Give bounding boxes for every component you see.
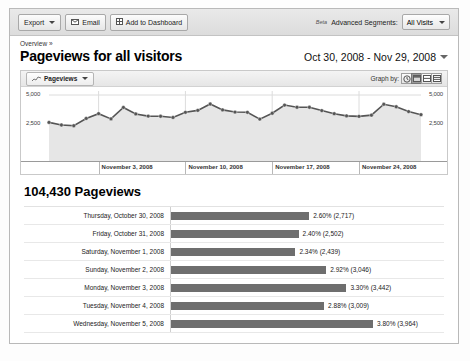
chevron-down-icon — [49, 21, 55, 24]
bar-row-label: Saturday, November 1, 2008 — [24, 248, 170, 255]
table-row[interactable]: Wednesday, November 5, 20083.80% (3,964) — [24, 315, 444, 333]
x-axis-tick-label: November 10, 2008 — [188, 164, 242, 170]
x-axis-labels: November 3, 2008November 10, 2008Novembe… — [21, 161, 447, 174]
bar-fill — [171, 212, 309, 220]
export-label: Export — [24, 19, 44, 26]
clock-icon — [403, 75, 411, 83]
advanced-segments-label: Advanced Segments: — [331, 19, 398, 26]
chevron-down-icon — [82, 77, 88, 80]
breadcrumb[interactable]: Overview » — [10, 36, 458, 47]
bar-track: 3.80% (3,964) — [170, 315, 444, 332]
daily-breakdown-table: Thursday, October 30, 20082.60% (2,717)F… — [24, 206, 444, 333]
bar-row-value: 3.30% (3,442) — [350, 284, 391, 291]
bar-row-value: 2.88% (3,009) — [328, 302, 369, 309]
page-title: Pageviews for all visitors — [20, 48, 182, 64]
bar-fill — [171, 302, 324, 310]
graph-by-control: Graph by: — [370, 73, 442, 84]
bar-track: 2.40% (2,502) — [170, 225, 444, 242]
graph-by-label: Graph by: — [370, 75, 399, 82]
advanced-segments-area: Beta Advanced Segments: All Visits — [316, 14, 450, 30]
chart-header: Pageviews Graph by: — [21, 71, 447, 87]
x-axis-tick — [99, 162, 100, 174]
bar-track: 2.34% (2,439) — [170, 243, 444, 260]
y-axis-label-bottom-left: 2,500 — [26, 120, 40, 126]
bar-row-value: 3.80% (3,964) — [377, 320, 418, 327]
bar-row-label: Thursday, October 30, 2008 — [24, 212, 170, 219]
add-to-dashboard-button[interactable]: Add to Dashboard — [110, 14, 188, 31]
bar-fill — [171, 284, 346, 292]
export-button[interactable]: Export — [18, 14, 61, 31]
metric-tab-label: Pageviews — [44, 75, 77, 82]
email-button[interactable]: Email — [65, 14, 106, 31]
table-row[interactable]: Thursday, October 30, 20082.60% (2,717) — [24, 207, 444, 225]
bar-track: 2.60% (2,717) — [170, 207, 444, 224]
week-icon — [423, 75, 431, 82]
report-toolbar: Export Email Add to Dashboard B — [10, 9, 458, 36]
beta-badge: Beta — [316, 19, 327, 25]
line-chart-svg — [21, 87, 447, 161]
chart-panel: Pageviews Graph by: — [20, 70, 448, 175]
pageviews-line-chart: 5,000 2,500 5,000 2,500 — [21, 87, 447, 161]
bar-track: 2.92% (3,046) — [170, 261, 444, 278]
graph-by-monthly-button[interactable] — [431, 73, 442, 84]
chevron-down-icon — [440, 55, 448, 59]
x-axis-tick-label: November 24, 2008 — [362, 164, 416, 170]
x-axis-tick-label: November 3, 2008 — [102, 164, 153, 170]
bar-track: 3.30% (3,442) — [170, 279, 444, 296]
segment-select-value: All Visits — [407, 19, 433, 26]
email-label: Email — [82, 19, 100, 26]
bar-track: 2.88% (3,009) — [170, 297, 444, 314]
table-row[interactable]: Tuesday, November 4, 20082.88% (3,009) — [24, 297, 444, 315]
grid-icon — [116, 18, 123, 26]
segment-select[interactable]: All Visits — [402, 14, 450, 30]
y-axis-label-bottom-right: 2,500 — [429, 120, 443, 126]
analytics-page: Export Email Add to Dashboard B — [0, 0, 470, 361]
month-icon — [433, 75, 441, 82]
y-axis-label-top-left: 5,000 — [26, 91, 40, 97]
bar-row-label: Tuesday, November 4, 2008 — [24, 302, 170, 309]
x-axis-tick — [359, 162, 360, 174]
date-range-picker[interactable]: Oct 30, 2008 - Nov 29, 2008 — [304, 51, 448, 64]
bar-row-value: 2.92% (3,046) — [330, 266, 371, 273]
title-row: Pageviews for all visitors Oct 30, 2008 … — [10, 47, 458, 64]
bar-fill — [171, 266, 326, 274]
envelope-icon — [71, 19, 79, 26]
table-row[interactable]: Friday, October 31, 20082.40% (2,502) — [24, 225, 444, 243]
x-axis-tick — [185, 162, 186, 174]
chevron-down-icon — [439, 21, 445, 24]
bar-row-label: Monday, November 3, 2008 — [24, 284, 170, 291]
toolbar-actions: Export Email Add to Dashboard — [18, 14, 188, 31]
x-axis-tick-label: November 17, 2008 — [275, 164, 329, 170]
bar-row-value: 2.34% (2,439) — [299, 248, 340, 255]
x-axis-tick — [272, 162, 273, 174]
bar-fill — [171, 230, 299, 238]
bar-row-value: 2.60% (2,717) — [313, 212, 354, 219]
day-icon — [413, 75, 421, 82]
bar-row-label: Sunday, November 2, 2008 — [24, 266, 170, 273]
date-range-label: Oct 30, 2008 - Nov 29, 2008 — [304, 51, 436, 63]
report-card: Export Email Add to Dashboard B — [9, 8, 459, 344]
table-row[interactable]: Sunday, November 2, 20082.92% (3,046) — [24, 261, 444, 279]
totals-heading: 104,430 Pageviews — [10, 175, 458, 199]
bar-fill — [171, 320, 373, 328]
graph-by-buttons — [402, 73, 442, 84]
table-row[interactable]: Saturday, November 1, 20082.34% (2,439) — [24, 243, 444, 261]
metric-selector-pageviews[interactable]: Pageviews — [26, 72, 94, 86]
bar-row-label: Friday, October 31, 2008 — [24, 230, 170, 237]
bar-row-value: 2.40% (2,502) — [303, 230, 344, 237]
bar-row-label: Wednesday, November 5, 2008 — [24, 320, 170, 327]
bar-fill — [171, 248, 295, 256]
add-to-dashboard-label: Add to Dashboard — [126, 19, 182, 26]
y-axis-label-top-right: 5,000 — [429, 91, 443, 97]
table-row[interactable]: Monday, November 3, 20083.30% (3,442) — [24, 279, 444, 297]
sparkline-icon — [32, 76, 41, 82]
